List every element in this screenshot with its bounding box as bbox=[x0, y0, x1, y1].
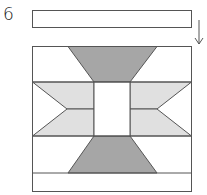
quilt-diagram bbox=[0, 0, 207, 195]
top-strip bbox=[33, 11, 192, 28]
down-arrow-icon bbox=[195, 20, 203, 44]
center-square bbox=[94, 82, 130, 136]
